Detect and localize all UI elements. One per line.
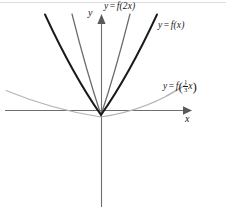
curve-label-f-2x: y=f(2x) [104,2,135,12]
curve-label-f-x: y=f(x) [158,21,184,31]
curve-label-f-x-equals: = [162,20,170,30]
graph-svg [0,0,226,207]
curve-label-f-x-arg: (x) [174,20,185,30]
curve-label-f-2x-equals: = [108,1,116,11]
curve-label-f-2x-arg: (2x) [120,1,136,11]
y-axis-arrowhead [97,14,105,24]
curve-label-f-third-close-paren: ) [193,79,197,94]
x-axis-label: x [185,114,190,124]
curve-label-f-third-equals: = [167,81,175,91]
figure-canvas: y x y=f(2x) y=f(x) y=f(13x) [0,0,226,207]
curve-label-f-one-third-x: y=f(13x) [163,79,197,93]
curve-label-f-third-open-paren: ( [179,79,183,94]
y-axis-label: y [88,8,93,18]
